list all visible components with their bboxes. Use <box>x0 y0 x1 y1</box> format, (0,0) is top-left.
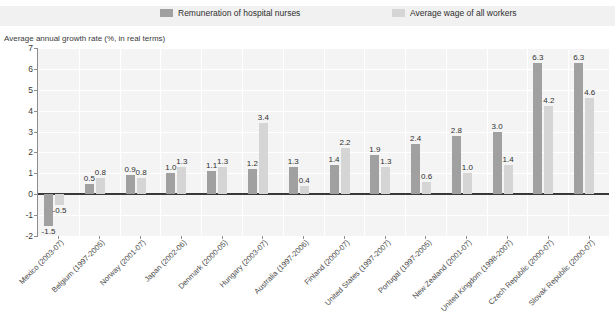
bar-group[interactable]: 1.42.2 <box>324 48 365 236</box>
bar-group[interactable]: 1.23.4 <box>242 48 283 236</box>
bar-group[interactable]: 2.40.6 <box>405 48 446 236</box>
bar[interactable] <box>381 167 390 194</box>
y-tick-mark <box>34 215 38 216</box>
bar[interactable] <box>166 173 175 194</box>
bar-value-label: 3.4 <box>258 113 269 122</box>
bar[interactable] <box>504 165 513 194</box>
bar[interactable] <box>463 173 472 194</box>
legend-item-wages: Average wage of all workers <box>392 8 517 18</box>
bar-value-label: 0.8 <box>136 168 147 177</box>
bar[interactable] <box>330 165 339 194</box>
y-tick-label: 7 <box>9 43 33 53</box>
y-tick-label: -2 <box>9 231 33 241</box>
bar-value-label: 0.6 <box>421 172 432 181</box>
chart-legend: Remuneration of hospital nurses Average … <box>0 6 615 26</box>
bar[interactable] <box>85 184 94 194</box>
y-tick-mark <box>34 236 38 237</box>
bar[interactable] <box>96 178 105 195</box>
bar-group[interactable]: -1.5-0.5 <box>38 48 79 236</box>
bar-value-label: 2.4 <box>410 134 421 143</box>
y-tick-label: 3 <box>9 127 33 137</box>
bar[interactable] <box>289 167 298 194</box>
bar[interactable] <box>585 98 594 194</box>
bar[interactable] <box>218 167 227 194</box>
bar-value-label: -0.5 <box>53 206 67 215</box>
y-tick-mark <box>34 48 38 49</box>
bar-value-label: 0.4 <box>299 176 310 185</box>
y-tick-mark <box>34 173 38 174</box>
plot-area: -1.5-0.50.50.80.90.81.01.31.11.31.23.41.… <box>37 48 609 236</box>
bar-value-label: 1.3 <box>380 157 391 166</box>
bar-group[interactable]: 0.90.8 <box>120 48 161 236</box>
bar-value-label: 1.3 <box>217 157 228 166</box>
bar[interactable] <box>137 178 146 195</box>
y-tick-mark <box>34 132 38 133</box>
bar-value-label: 3.0 <box>492 122 503 131</box>
bar-value-label: 1.1 <box>206 161 217 170</box>
bar-value-label: 1.0 <box>462 163 473 172</box>
bar[interactable] <box>55 194 64 204</box>
bar[interactable] <box>422 182 431 195</box>
bar-value-label: 1.4 <box>328 155 339 164</box>
bar[interactable] <box>177 167 186 194</box>
bar-value-label: 0.8 <box>95 168 106 177</box>
x-axis-labels: Mexico (2003-07)Belgium (1997-2005)Norwa… <box>37 238 608 327</box>
chart-figure: Remuneration of hospital nurses Average … <box>0 0 615 327</box>
bar-group[interactable]: 2.81.0 <box>446 48 487 236</box>
legend-label-nurses: Remuneration of hospital nurses <box>178 8 300 18</box>
bar-group[interactable]: 0.50.8 <box>79 48 120 236</box>
legend-swatch-nurses <box>160 9 173 17</box>
bar[interactable] <box>574 63 583 195</box>
y-tick-mark <box>34 152 38 153</box>
legend-item-nurses: Remuneration of hospital nurses <box>160 8 300 18</box>
y-tick-mark <box>34 69 38 70</box>
y-tick-label: 4 <box>9 106 33 116</box>
y-tick-label: 0 <box>9 189 33 199</box>
bar-group[interactable]: 1.30.4 <box>283 48 324 236</box>
bar-group[interactable]: 1.11.3 <box>201 48 242 236</box>
bar[interactable] <box>533 63 542 195</box>
bar-group[interactable]: 1.91.3 <box>364 48 405 236</box>
bar-value-label: 6.3 <box>532 53 543 62</box>
y-tick-mark <box>34 194 38 195</box>
bar[interactable] <box>126 175 135 194</box>
bar[interactable] <box>341 148 350 194</box>
x-tick-label: Japan (2002-06) <box>142 238 188 284</box>
gridline <box>38 236 609 237</box>
bar[interactable] <box>300 186 309 194</box>
bar-value-label: 2.8 <box>451 126 462 135</box>
bar-value-label: 1.0 <box>165 163 176 172</box>
bar-group[interactable]: 1.01.3 <box>160 48 201 236</box>
bar-value-label: 2.2 <box>339 138 350 147</box>
bar[interactable] <box>370 155 379 195</box>
y-tick-label: 1 <box>9 168 33 178</box>
bar-value-label: 6.3 <box>573 53 584 62</box>
bar-group[interactable]: 6.34.2 <box>527 48 568 236</box>
y-axis-title: Average annual growth rate (%, in real t… <box>4 34 165 43</box>
bar-value-label: 1.2 <box>247 159 258 168</box>
bar-value-label: 4.2 <box>543 96 554 105</box>
bar-value-label: 4.6 <box>584 88 595 97</box>
bar[interactable] <box>544 106 553 194</box>
bar-value-label: -1.5 <box>42 227 56 236</box>
y-tick-label: 2 <box>9 147 33 157</box>
bar-value-label: 1.9 <box>369 145 380 154</box>
bar[interactable] <box>259 123 268 194</box>
y-tick-label: 5 <box>9 85 33 95</box>
bar[interactable] <box>411 144 420 194</box>
y-tick-label: 6 <box>9 64 33 74</box>
bar-value-label: 1.3 <box>176 157 187 166</box>
bar-value-label: 0.5 <box>84 174 95 183</box>
y-tick-mark <box>34 90 38 91</box>
bar-value-label: 1.4 <box>503 155 514 164</box>
bar[interactable] <box>452 136 461 194</box>
legend-label-wages: Average wage of all workers <box>410 8 517 18</box>
bar[interactable] <box>493 132 502 195</box>
bar[interactable] <box>248 169 257 194</box>
bar-group[interactable]: 3.01.4 <box>487 48 528 236</box>
x-tick-label: United Kingdom (1998-2007) <box>439 238 514 313</box>
y-tick-label: -1 <box>9 210 33 220</box>
y-tick-mark <box>34 111 38 112</box>
bar[interactable] <box>207 171 216 194</box>
bar-group[interactable]: 6.34.6 <box>568 48 609 236</box>
